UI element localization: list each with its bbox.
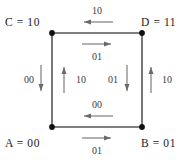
arrow-right-inner-downward [125,65,130,91]
diagram-canvas: C = 10 D = 11 A = 00 B = 01 10 01 00 01 … [0,0,193,161]
arrow-bottom-inner-leftward [84,113,113,118]
vertex-dot-A [49,124,55,130]
arrow-left-inner-upward [62,67,67,93]
transition-arrows [39,19,154,140]
edge-label-bottom-inner: 00 [92,100,102,110]
square-edges [52,33,142,127]
arrow-top-outer-leftward [84,19,113,24]
edge-label-right-inner: 01 [108,75,118,85]
vertex-dot-B [139,124,145,130]
vertex-label-A: A = 00 [5,138,40,150]
vertex-label-D: D = 11 [141,17,176,29]
vertex-label-B: B = 01 [141,138,176,150]
arrow-right-outer-upward [149,67,154,93]
edge-label-bottom-outer: 01 [92,146,102,156]
vertex-label-C: C = 10 [5,17,40,29]
arrow-bottom-outer-rightward [82,135,111,140]
vertex-dot-D [139,30,145,36]
arrow-top-inner-rightward [82,41,111,46]
edge-label-left-outer: 00 [24,75,34,85]
edge-label-right-outer: 10 [162,75,172,85]
vertex-dot-C [49,30,55,36]
edge-label-top-inner: 01 [92,52,102,62]
edge-label-left-inner: 10 [76,75,86,85]
arrow-left-outer-downward [39,65,44,91]
square-vertices [49,30,145,130]
edge-label-top-outer: 10 [92,6,102,16]
